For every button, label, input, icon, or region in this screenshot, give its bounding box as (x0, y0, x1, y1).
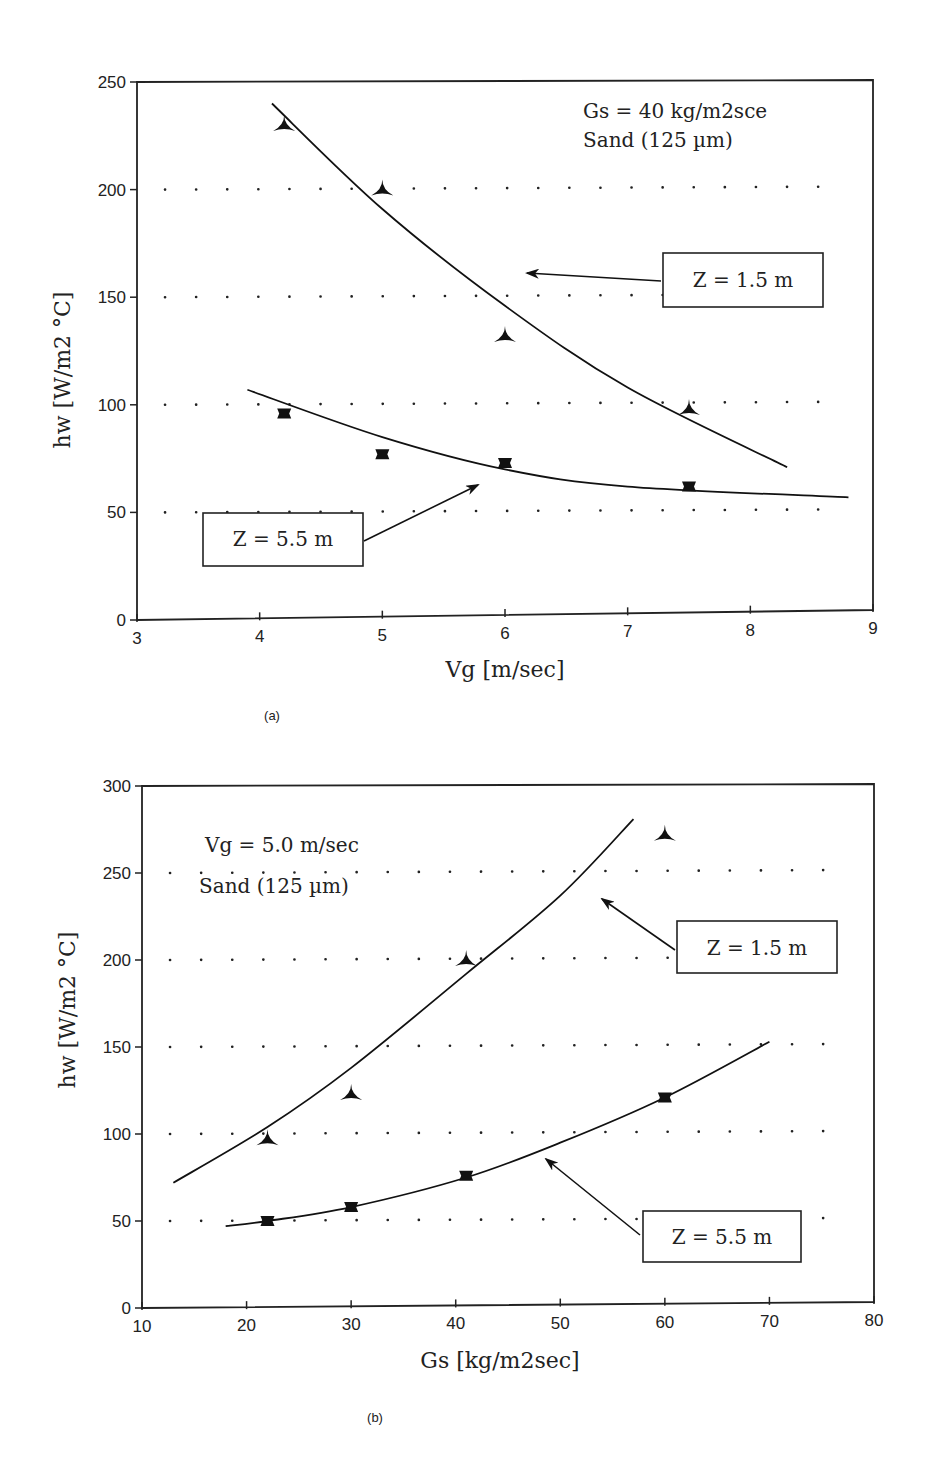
y-tick-label: 100 (98, 396, 126, 415)
y-tick-label: 250 (103, 864, 131, 883)
arrow-z55-b (546, 1159, 640, 1235)
triangle-marker (494, 326, 516, 342)
square-marker (459, 1171, 473, 1181)
label-z55-a: Z = 5.5 m (233, 527, 334, 551)
x-tick-label: 40 (446, 1314, 465, 1333)
y-tick-label: 0 (117, 611, 126, 630)
triangle-marker (654, 825, 676, 841)
fit-curve (226, 1042, 770, 1226)
grid-line (170, 1131, 846, 1134)
y-tick-label: 200 (98, 181, 126, 200)
x-tick-label: 8 (746, 621, 755, 640)
x-tick-label: 10 (133, 1317, 152, 1336)
annotation-sand-a: Sand (125 µm) (583, 128, 733, 152)
label-z15-b: Z = 1.5 m (707, 936, 808, 960)
y-tick-label: 200 (103, 951, 131, 970)
label-box-z15-a: Z = 1.5 m (663, 253, 823, 307)
square-marker (375, 449, 389, 459)
square-marker (658, 1092, 672, 1102)
arrow-z55-a (364, 485, 478, 541)
fit-curve (247, 390, 848, 498)
x-tick-label: 9 (868, 619, 877, 638)
x-tick-label: 5 (378, 626, 387, 645)
grid-line (165, 187, 845, 190)
arrow-z15-b (602, 899, 675, 950)
y-tick-label: 50 (112, 1212, 131, 1231)
x-axis-label-a: Vg [m/sec] (444, 657, 564, 682)
triangle-marker (678, 399, 700, 415)
arrow-z15-a (527, 273, 661, 281)
label-z15-a: Z = 1.5 m (693, 268, 794, 292)
x-tick-label: 6 (500, 624, 509, 643)
x-tick-label: 20 (237, 1316, 256, 1335)
square-marker (277, 408, 291, 418)
x-tick-label: 4 (255, 627, 264, 646)
label-box-z55-b: Z = 5.5 m (643, 1211, 801, 1262)
label-box-z55-a: Z = 5.5 m (203, 513, 363, 566)
annotation-sand-b: Sand (125 µm) (199, 874, 349, 898)
y-tick-label: 150 (103, 1038, 131, 1057)
grid-line (170, 1044, 846, 1047)
y-tick-label: 50 (107, 503, 126, 522)
y-axis-label-a: hw [W/m2 °C] (50, 292, 75, 449)
x-tick-label: 50 (551, 1314, 570, 1333)
annotation-gs-a: Gs = 40 kg/m2sce (583, 99, 767, 123)
caption-a: (a) (264, 708, 280, 723)
y-tick-label: 250 (98, 73, 126, 92)
triangle-marker (455, 950, 477, 966)
x-axis-label-b: Gs [kg/m2sec] (420, 1348, 579, 1373)
y-axis-label-b: hw [W/m2 °C] (55, 932, 80, 1089)
square-marker (260, 1216, 274, 1226)
grid-line (165, 402, 845, 405)
figure: 0501001502002503456789 05010015020025030… (0, 0, 927, 1475)
label-box-z15-b: Z = 1.5 m (677, 921, 837, 973)
y-tick-label: 300 (103, 777, 131, 796)
label-z55-b: Z = 5.5 m (672, 1225, 773, 1249)
x-tick-label: 60 (655, 1313, 674, 1332)
y-tick-label: 0 (122, 1299, 131, 1318)
y-tick-label: 100 (103, 1125, 131, 1144)
grid-line (165, 509, 845, 512)
y-tick-label: 150 (98, 288, 126, 307)
grid-line (170, 870, 846, 873)
triangle-marker (371, 180, 393, 196)
x-tick-label: 80 (865, 1311, 884, 1330)
annotation-vg-b: Vg = 5.0 m/sec (204, 833, 359, 857)
x-tick-label: 7 (623, 622, 632, 641)
x-tick-label: 70 (760, 1312, 779, 1331)
square-marker (344, 1202, 358, 1212)
square-marker (498, 458, 512, 468)
x-tick-label: 3 (132, 629, 141, 648)
caption-b: (b) (367, 1410, 383, 1425)
triangle-marker (340, 1084, 362, 1100)
x-tick-label: 30 (342, 1315, 361, 1334)
square-marker (682, 482, 696, 492)
